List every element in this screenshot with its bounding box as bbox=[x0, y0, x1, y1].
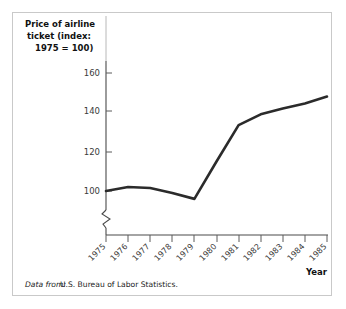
y-tick-label-100: 100 bbox=[84, 186, 100, 196]
x-tick-label-1976: 1976 bbox=[109, 242, 130, 263]
x-tick-label-1979: 1979 bbox=[175, 242, 196, 263]
y-tick-label-160: 160 bbox=[84, 68, 100, 78]
x-tick-label-1981: 1981 bbox=[220, 242, 241, 263]
chart-figure: Price of airline ticket (index: 1975 = 1… bbox=[12, 12, 332, 296]
x-tick-label-1983: 1983 bbox=[264, 242, 285, 263]
y-axis-break-mark bbox=[102, 210, 110, 228]
data-series-line bbox=[106, 97, 327, 199]
source-text: U.S. Bureau of Labor Statistics. bbox=[60, 280, 178, 289]
y-axis-title-line1: Price of airline bbox=[25, 19, 95, 29]
x-axis-name: Year bbox=[305, 267, 328, 277]
x-tick-label-1985: 1985 bbox=[308, 242, 329, 263]
x-tick-label-1978: 1978 bbox=[153, 242, 174, 263]
line-chart: Price of airline ticket (index: 1975 = 1… bbox=[13, 13, 331, 295]
x-tick-label-1977: 1977 bbox=[131, 242, 152, 263]
y-tick-label-140: 140 bbox=[84, 106, 100, 116]
y-tick-label-120: 120 bbox=[84, 147, 100, 157]
x-tick-label-1980: 1980 bbox=[198, 242, 219, 263]
x-tick-label-1984: 1984 bbox=[286, 242, 307, 263]
y-axis-title-line2: ticket (index: bbox=[27, 31, 91, 41]
x-tick-label-1982: 1982 bbox=[242, 242, 263, 263]
y-axis-title-line3: 1975 = 100) bbox=[35, 43, 93, 53]
x-tick-label-1975: 1975 bbox=[87, 242, 108, 263]
